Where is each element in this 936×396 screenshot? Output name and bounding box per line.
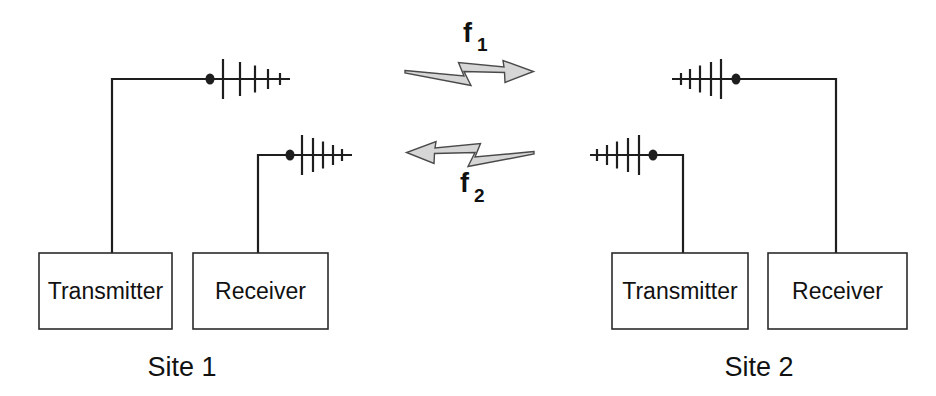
- site1-receiver-label: Receiver: [215, 278, 306, 304]
- site1-receiver-yagi-antenna-icon: [286, 135, 343, 175]
- site2-receiver-feedline: [672, 79, 836, 253]
- antenna-feed-dot: [732, 74, 741, 85]
- f2-lightning-arrow-icon: [407, 142, 535, 167]
- site2-transmitter-label: Transmitter: [622, 278, 738, 304]
- site2: Transmitter Receiver Site 2: [590, 59, 907, 382]
- antenna-feed-dot: [649, 150, 658, 161]
- site2-receiver-yagi-antenna-icon: [681, 59, 741, 99]
- diagram-canvas: Transmitter Receiver Site 1 f 1 f 2: [0, 0, 936, 396]
- f1-lightning-arrow-icon: [405, 61, 534, 86]
- f1-label-subscript: 1: [477, 34, 488, 55]
- site2-receiver-label: Receiver: [792, 278, 883, 304]
- antenna-feed-dot: [286, 150, 295, 161]
- site1-transmitter-label: Transmitter: [48, 278, 164, 304]
- site2-transmitter-feedline: [590, 155, 683, 253]
- site2-name: Site 2: [724, 352, 793, 382]
- radio-link-diagram: Transmitter Receiver Site 1 f 1 f 2: [0, 0, 936, 396]
- site1-receiver-feedline: [258, 155, 352, 253]
- f1-label: f: [463, 18, 473, 48]
- site1-name: Site 1: [147, 352, 216, 382]
- site1-transmitter-feedline: [112, 79, 290, 253]
- rf-link: f 1 f 2: [405, 18, 534, 206]
- f2-label-subscript: 2: [474, 185, 485, 206]
- f2-label: f: [460, 168, 470, 198]
- antenna-feed-dot: [206, 74, 215, 85]
- site1: Transmitter Receiver Site 1: [39, 59, 352, 382]
